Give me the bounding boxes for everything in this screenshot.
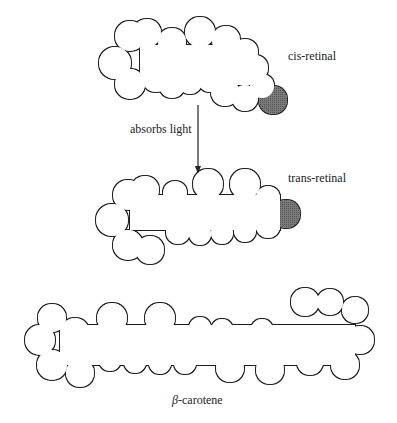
molecule-diagram — [0, 0, 397, 423]
carotene-text: -carotene — [178, 393, 223, 407]
arrow — [195, 105, 201, 174]
beta-carotene-label: β-carotene — [172, 393, 223, 408]
trans-retinal-model — [96, 169, 300, 264]
cis-retinal-model — [99, 17, 287, 114]
absorbs-light-label: absorbs light — [130, 122, 192, 137]
trans-retinal-label: trans-retinal — [288, 171, 346, 186]
beta-carotene-model — [25, 288, 374, 387]
cis-retinal-label: cis-retinal — [288, 49, 336, 64]
